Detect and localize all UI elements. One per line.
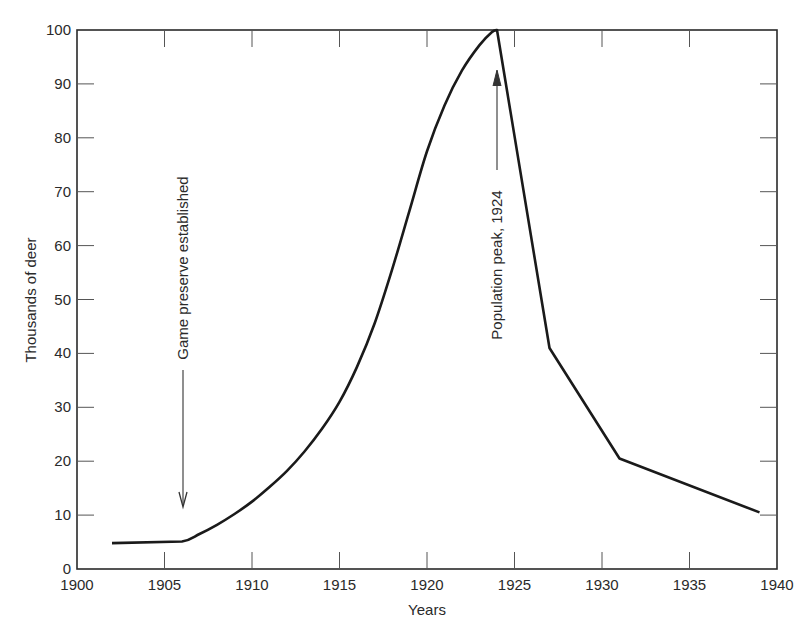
y-tick-label: 10 — [54, 506, 71, 523]
y-tick-label: 80 — [54, 129, 71, 146]
x-tick-label: 1930 — [585, 576, 618, 593]
y-tick-label: 20 — [54, 452, 71, 469]
y-tick-label: 40 — [54, 344, 71, 361]
y-tick-label: 60 — [54, 237, 71, 254]
annotations — [179, 70, 501, 507]
x-tick-label: 1915 — [323, 576, 356, 593]
chart-canvas: 1900190519101915192019251930193519400102… — [0, 0, 808, 633]
x-tick-label: 1925 — [498, 576, 531, 593]
y-tick-label: 50 — [54, 291, 71, 308]
x-tick-label: 1910 — [235, 576, 268, 593]
y-tick-label: 70 — [54, 183, 71, 200]
x-axis-title: Years — [408, 601, 446, 618]
deer-population-chart: 1900190519101915192019251930193519400102… — [0, 0, 808, 633]
x-tick-label: 1900 — [60, 576, 93, 593]
data-series — [112, 30, 760, 543]
annotation-population-peak: Population peak, 1924 — [488, 190, 505, 339]
y-tick-label: 90 — [54, 75, 71, 92]
x-tick-label: 1940 — [760, 576, 793, 593]
x-tick-label: 1905 — [148, 576, 181, 593]
y-tick-label: 100 — [46, 21, 71, 38]
x-tick-label: 1920 — [410, 576, 443, 593]
annotation-game-preserve: Game preserve established — [174, 176, 191, 359]
axis-ticks: 1900190519101915192019251930193519400102… — [46, 21, 794, 593]
y-axis-title: Thousands of deer — [22, 237, 39, 362]
population-line — [112, 30, 760, 543]
arrow-up-icon — [493, 70, 501, 86]
y-tick-label: 30 — [54, 398, 71, 415]
x-tick-label: 1935 — [673, 576, 706, 593]
y-tick-label: 0 — [63, 560, 71, 577]
